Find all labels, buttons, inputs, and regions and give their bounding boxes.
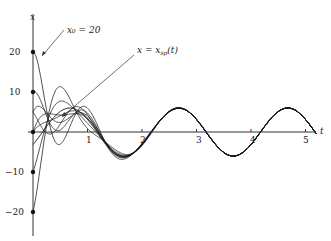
tick-label-t2: 2: [140, 135, 146, 145]
annotation-x0: x₀ = 20: [67, 25, 101, 35]
tick-label-y20: 20: [9, 47, 21, 57]
tick-label-t3: 3: [196, 135, 202, 145]
tick-label-t5: 5: [303, 135, 309, 145]
tick-label-yn10: −10: [5, 167, 24, 177]
solution-curve: [33, 92, 316, 158]
tick-label-y10: 10: [9, 87, 21, 97]
annotation-xsp: x = xsp(t): [137, 45, 178, 57]
solution-curve: [33, 101, 316, 172]
tick-label-t1: 1: [86, 135, 92, 145]
chart: 1 2 3 4 5 20 10 −10 −20 x t x₀ = 20 x = …: [0, 0, 331, 241]
tick-label-t4: 4: [250, 135, 256, 145]
chart-svg: 1 2 3 4 5 20 10 −10 −20 x t x₀ = 20 x = …: [0, 0, 331, 241]
annotation-arrow-x0: [42, 30, 64, 56]
annotation-arrow-xsp: [62, 55, 134, 117]
x-axis-label: t: [320, 126, 324, 136]
y-axis-label: x: [30, 12, 35, 22]
tick-label-yn20: −20: [5, 207, 24, 217]
